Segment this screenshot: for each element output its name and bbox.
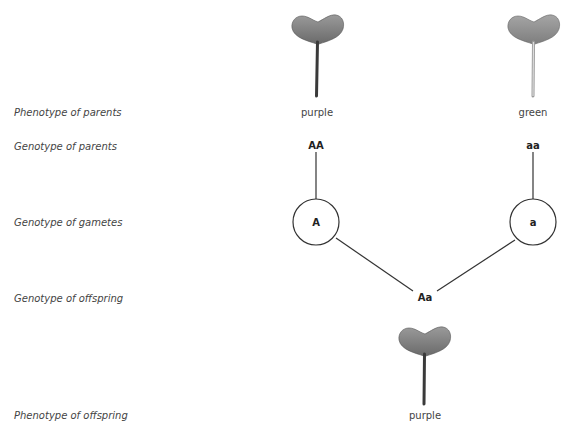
plant-icon-parent-green: [506, 8, 562, 98]
gamete-parent-1: A: [312, 217, 320, 228]
plant-icon-offspring-purple: [397, 320, 453, 406]
phenotype-offspring: purple: [409, 410, 441, 421]
plant-icon-parent-purple: [290, 8, 346, 98]
phenotype-parent-2: green: [519, 107, 548, 118]
genotype-parent-2: aa: [526, 140, 540, 151]
gamete-parent-2: a: [530, 217, 537, 228]
genotype-offspring: Aa: [418, 292, 433, 303]
phenotype-parent-1: purple: [301, 107, 333, 118]
genotype-parent-1: AA: [308, 140, 323, 151]
